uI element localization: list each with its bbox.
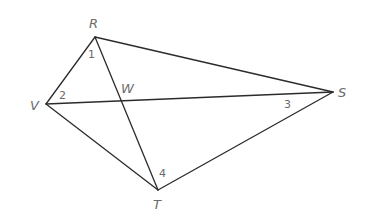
intersection-label-w: W	[121, 81, 135, 96]
diagonal-rt	[95, 37, 158, 190]
angle-label-3: 3	[284, 98, 291, 111]
vertex-label-r: R	[89, 16, 98, 31]
angle-label-2: 2	[59, 89, 66, 102]
segment-tv	[46, 104, 158, 190]
segment-st	[158, 92, 333, 190]
vertex-label-t: T	[153, 197, 162, 212]
vertex-label-s: S	[338, 85, 346, 100]
angle-label-1: 1	[88, 48, 95, 61]
quadrilateral-diagram: R S T V W 1 2 3 4	[0, 0, 365, 216]
vertex-label-v: V	[30, 98, 40, 113]
angle-label-4: 4	[159, 167, 166, 180]
